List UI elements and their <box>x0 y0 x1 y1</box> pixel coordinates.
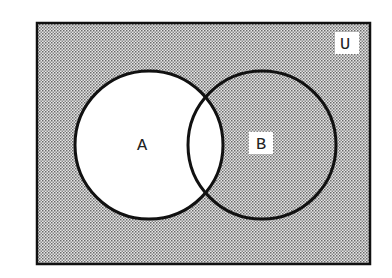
universe-label: U <box>340 35 350 54</box>
set-b-label: B <box>256 135 266 154</box>
venn-diagram: U A B <box>0 0 392 278</box>
set-a-circle <box>75 71 223 219</box>
set-a-label: A <box>137 136 148 155</box>
